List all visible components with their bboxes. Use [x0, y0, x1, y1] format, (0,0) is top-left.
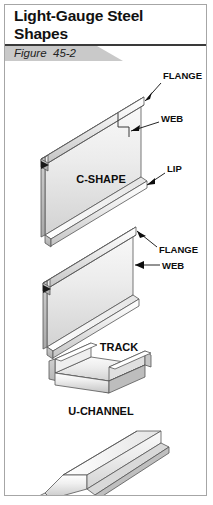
track-callout-web: WEB: [162, 260, 184, 271]
page-title: Light-Gauge Steel Shapes: [14, 7, 199, 43]
figure-number-band: Figure 45-2: [5, 46, 206, 61]
figure-number-label: Figure 45-2: [14, 46, 76, 61]
track-callout-flange: FLANGE: [159, 244, 198, 255]
figure-header: Light-Gauge Steel Shapes: [5, 5, 206, 45]
c-shape-callout-flange: FLANGE: [163, 70, 202, 81]
c-shape-callout-lip: LIP: [167, 163, 182, 174]
figure-drawing-canvas: FLANGE WEB LIP C-SHAPE: [5, 61, 206, 495]
c-shape-drawing: FLANGE WEB LIP C-SHAPE: [41, 70, 202, 247]
c-shape-label: C-SHAPE: [76, 173, 126, 185]
track-drawing: FLANGE WEB TRACK: [43, 227, 198, 359]
furring-channel-drawing: FURRING CHANNEL: [33, 431, 169, 495]
furring-front-web: [45, 475, 87, 495]
u-channel-label: U-CHANNEL: [68, 405, 134, 417]
track-label: TRACK: [100, 341, 139, 353]
u-channel-drawing: U-CHANNEL: [49, 343, 151, 417]
c-shape-callout-web: WEB: [161, 113, 183, 124]
figure-card: Light-Gauge Steel Shapes Figure 45-2: [4, 4, 207, 496]
